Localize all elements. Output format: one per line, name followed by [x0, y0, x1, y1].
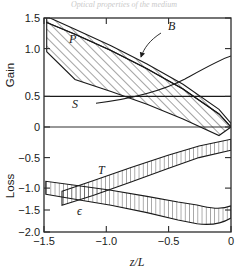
x-axis-title: z/L [129, 255, 145, 269]
curve-label-S: S [72, 97, 78, 111]
x-tick-label-3: −0.5 [158, 235, 180, 247]
x-tick-label-4: 0 [228, 235, 234, 247]
x-tick-label-1: −1.5 [33, 235, 55, 247]
curve-label-P: P [68, 32, 77, 46]
y-tick-label-7: −1.5 [18, 204, 40, 216]
chart-svg: Optical properties of the medium P B S T [0, 0, 249, 273]
figure-container: Optical properties of the medium P B S T [0, 0, 249, 273]
curve-label-T: T [98, 163, 106, 177]
y-tick-label-6: −1.0 [18, 182, 40, 194]
plot-area [44, 16, 231, 232]
leader-line-B [141, 33, 161, 57]
y-tick-label-5: −0.5 [18, 152, 40, 164]
band-epsilon-fill [46, 181, 231, 224]
curve-label-epsilon: ϵ [77, 204, 83, 218]
y-tick-label-1: 1.5 [25, 12, 40, 24]
y-tick-label-2: 1.0 [25, 43, 40, 55]
y-axis-title-gain: Gain [4, 63, 16, 87]
y-tick-label-3: 0.5 [25, 90, 40, 102]
figure-header-text: Optical properties of the medium [71, 0, 177, 9]
curve-label-B: B [168, 19, 176, 33]
y-tick-label-4: 0 [34, 121, 40, 133]
y-axis-title-loss: Loss [4, 174, 16, 199]
x-tick-label-2: −1.0 [95, 235, 117, 247]
